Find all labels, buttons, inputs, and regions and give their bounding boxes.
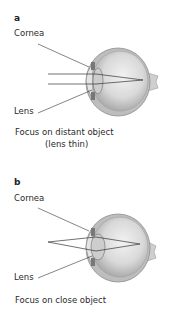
caption: Focus on close object xyxy=(15,294,106,306)
panel-a-distant-focus: a Cornea Lens Focus on di xyxy=(0,0,170,156)
panel-b-close-focus: b Cornea Lens Focus on close object xyxy=(0,156,170,312)
caption-line1: Focus on close object xyxy=(15,295,106,305)
caption-line1: Focus on distant object xyxy=(15,127,114,137)
caption: Focus on distant object (lens thin) xyxy=(15,126,114,150)
caption-line2: (lens thin) xyxy=(15,138,114,150)
eye-cross-section-icon xyxy=(0,156,170,312)
